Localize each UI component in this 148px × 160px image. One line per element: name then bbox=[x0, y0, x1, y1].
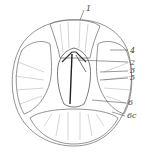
operculum-suture bbox=[70, 54, 72, 104]
operculum bbox=[57, 48, 90, 107]
label-6: 6 bbox=[128, 99, 133, 107]
right-plate bbox=[97, 42, 132, 114]
operculum-top bbox=[62, 52, 86, 62]
outer-outline bbox=[12, 20, 131, 146]
left-plate bbox=[16, 42, 51, 114]
label-4: 4 bbox=[130, 47, 135, 55]
label-1: 1 bbox=[86, 5, 91, 13]
label-5: 5 bbox=[130, 74, 135, 82]
shell-diagram bbox=[0, 0, 148, 160]
label-6c: 6c bbox=[127, 112, 137, 120]
